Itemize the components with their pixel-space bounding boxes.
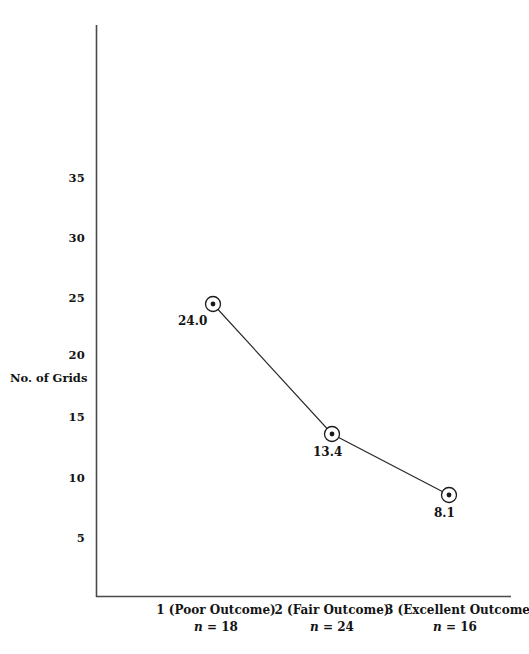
n-value: = 24: [323, 620, 354, 634]
y-tick-label-10: 10: [45, 473, 85, 485]
n-symbol: n: [433, 620, 442, 634]
x-category-1-sample-size: n = 18: [146, 619, 286, 636]
x-category-3-label: 3 (Excellent Outcome): [385, 602, 525, 619]
y-tick-label-15: 15: [45, 412, 85, 424]
data-line: [213, 304, 449, 495]
n-value: = 18: [207, 620, 238, 634]
y-axis-title: No. of Grids: [10, 373, 90, 385]
plot-area: [0, 0, 529, 654]
line-chart: No. of Grids 35 30 25 20 15 10 5 24.0 13…: [0, 0, 529, 654]
n-symbol: n: [310, 620, 319, 634]
y-tick-label-35: 35: [45, 173, 85, 185]
data-label-3: 8.1: [434, 507, 455, 519]
x-category-2-label: 2 (Fair Outcome): [266, 602, 398, 619]
x-category-3-sample-size: n = 16: [385, 619, 525, 636]
data-point-marker-1: [206, 297, 221, 312]
y-tick-label-5: 5: [45, 533, 85, 545]
n-value: = 16: [446, 620, 477, 634]
data-point-marker-3: [442, 488, 457, 503]
x-category-2-sample-size: n = 24: [266, 619, 398, 636]
x-category-1-label: 1 (Poor Outcome): [146, 602, 286, 619]
y-tick-label-20: 20: [45, 350, 85, 362]
x-category-2: 2 (Fair Outcome) n = 24: [266, 602, 398, 637]
y-tick-label-25: 25: [45, 293, 85, 305]
data-label-2: 13.4: [313, 446, 342, 458]
x-category-3: 3 (Excellent Outcome) n = 16: [385, 602, 525, 637]
data-point-marker-2: [325, 427, 340, 442]
data-label-1: 24.0: [178, 315, 207, 327]
n-symbol: n: [194, 620, 203, 634]
x-category-1: 1 (Poor Outcome) n = 18: [146, 602, 286, 637]
y-tick-label-30: 30: [45, 233, 85, 245]
